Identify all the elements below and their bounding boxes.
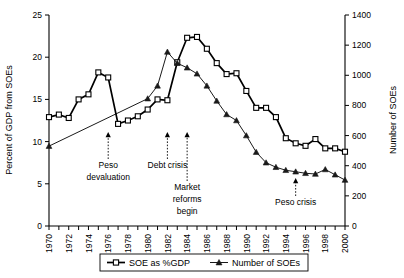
x-tick-label: 1986: [202, 234, 212, 253]
y-tick-label-left: 20: [33, 52, 43, 62]
data-point-marker: [303, 143, 308, 148]
x-tick-label: 1994: [281, 234, 291, 253]
x-tick-label: 1988: [222, 234, 232, 253]
y-tick-label-right: 200: [352, 191, 366, 201]
chart-annotations: PesodevaluationDebt crisisMarketreformsb…: [86, 132, 316, 216]
x-tick-label: 1980: [143, 234, 153, 253]
data-point-marker: [323, 146, 328, 151]
x-tick-label: 1976: [103, 234, 113, 253]
annotation-label: Debt crisis: [148, 160, 188, 170]
data-point-marker: [165, 49, 171, 54]
data-point-marker: [135, 114, 140, 119]
annotation-label: reforms: [173, 194, 202, 204]
data-point-marker: [214, 98, 220, 103]
data-point-marker: [234, 71, 239, 76]
annotation-label: devaluation: [86, 172, 130, 182]
data-point-marker: [155, 83, 161, 88]
y-tick-label-right: 1200: [352, 40, 371, 50]
x-tick-label: 1984: [182, 234, 192, 253]
annotation-arrow-icon: [165, 132, 170, 137]
data-point-marker: [254, 105, 259, 110]
x-tick-label: 1972: [64, 234, 74, 253]
chart-canvas: 0510152025 0200400600800100012001400 197…: [0, 0, 404, 278]
data-point-marker: [273, 115, 278, 120]
x-axis-ticks: 1970197219741976197819801982198419861988…: [44, 226, 350, 253]
data-point-marker: [264, 105, 269, 110]
annotation-arrow-icon: [185, 132, 190, 137]
data-point-marker: [332, 172, 338, 177]
data-point-marker: [106, 75, 111, 80]
data-point-marker: [273, 164, 279, 169]
data-point-marker: [76, 97, 81, 102]
y-tick-label-left: 10: [33, 137, 43, 147]
x-tick-label: 1998: [320, 234, 330, 253]
x-tick-label: 1996: [301, 234, 311, 253]
data-point-marker: [195, 34, 200, 39]
data-point-marker: [47, 115, 52, 120]
x-tick-label: 1990: [242, 234, 252, 253]
chart-legend: SOE as %GDPNumber of SOEs: [100, 254, 308, 271]
annotation-arrow-icon: [293, 178, 298, 183]
data-point-marker: [244, 88, 249, 93]
data-point-marker: [322, 167, 328, 172]
legend-label: Number of SOEs: [232, 258, 301, 268]
data-point-marker: [313, 137, 318, 142]
data-point-marker: [214, 61, 219, 66]
x-tick-label: 1982: [163, 234, 173, 253]
y-axis-left-title: Percent of GDP from SOEs: [4, 65, 14, 175]
data-point-marker: [66, 115, 71, 120]
y-tick-label-left: 0: [37, 221, 42, 231]
y-tick-label-right: 1400: [352, 10, 371, 20]
annotation-label: Peso: [99, 160, 119, 170]
annotation-label: begin: [177, 206, 198, 216]
y-tick-label-right: 800: [352, 100, 366, 110]
x-tick-label: 2000: [340, 234, 350, 253]
data-point-marker: [116, 121, 121, 126]
data-point-marker: [333, 146, 338, 151]
chart-figure: 0510152025 0200400600800100012001400 197…: [0, 0, 404, 278]
data-point-marker: [145, 107, 150, 112]
x-tick-label: 1992: [261, 234, 271, 253]
annotation-label: Peso crisis: [275, 197, 316, 207]
data-point-marker: [283, 136, 288, 141]
y-axis-right-ticks: 0200400600800100012001400: [345, 10, 371, 231]
data-point-marker: [155, 97, 160, 102]
data-point-marker: [243, 133, 249, 138]
y-tick-label-left: 25: [33, 10, 43, 20]
y-axis-right-title: Number of SOEs: [388, 85, 398, 154]
y-tick-label-left: 5: [37, 179, 42, 189]
x-tick-label: 1974: [84, 234, 94, 253]
data-point-marker: [194, 71, 200, 76]
data-point-marker: [224, 72, 229, 77]
x-tick-label: 1970: [44, 234, 54, 253]
y-tick-label-right: 400: [352, 161, 366, 171]
data-point-marker: [234, 118, 240, 123]
y-tick-label-right: 600: [352, 131, 366, 141]
annotation-arrow-icon: [106, 132, 111, 137]
data-point-marker: [46, 143, 52, 148]
data-point-marker: [96, 70, 101, 75]
y-tick-label-left: 15: [33, 94, 43, 104]
y-tick-label-right: 1000: [352, 70, 371, 80]
x-tick-label: 1978: [123, 234, 133, 253]
data-point-marker: [184, 65, 190, 70]
data-point-marker: [86, 92, 91, 97]
chart-series: [46, 34, 348, 182]
data-point-marker: [293, 141, 298, 146]
data-point-marker: [342, 177, 348, 182]
legend-label: SOE as %GDP: [129, 258, 190, 268]
data-point-marker: [185, 35, 190, 40]
data-point-marker: [343, 149, 348, 154]
y-tick-label-right: 0: [352, 221, 357, 231]
data-point-marker: [56, 112, 61, 117]
data-point-marker: [125, 118, 130, 123]
legend-marker-open-square-icon: [113, 260, 118, 265]
data-point-marker: [165, 98, 170, 103]
data-point-marker: [204, 46, 209, 51]
annotation-label: Market: [174, 182, 201, 192]
series-line-soe-pct-gdp: [49, 37, 345, 152]
data-point-marker: [253, 149, 259, 154]
y-axis-left-ticks: 0510152025: [33, 10, 49, 231]
